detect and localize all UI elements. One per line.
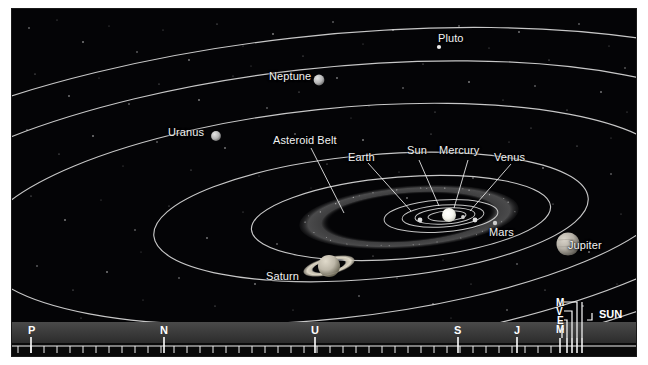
body-mercury bbox=[461, 215, 465, 219]
body-neptune bbox=[314, 75, 325, 86]
solar-system-canvas bbox=[11, 8, 637, 357]
body-uranus bbox=[211, 131, 221, 141]
label-neptune: Neptune bbox=[269, 70, 311, 82]
solar-system-figure: Pluto Neptune Uranus Asteroid Belt Earth… bbox=[0, 0, 648, 365]
label-sun: Sun bbox=[407, 144, 427, 156]
body-mars bbox=[493, 221, 497, 225]
label-mars: Mars bbox=[489, 226, 514, 238]
label-mercury: Mercury bbox=[439, 144, 479, 156]
body-pluto bbox=[437, 45, 441, 49]
body-sun bbox=[442, 208, 456, 222]
label-pluto: Pluto bbox=[438, 32, 464, 44]
label-saturn: Saturn bbox=[266, 270, 299, 282]
label-asteroid-belt: Asteroid Belt bbox=[273, 134, 337, 146]
diagram-frame: Pluto Neptune Uranus Asteroid Belt Earth… bbox=[11, 8, 637, 357]
scale-label-saturn: S bbox=[454, 325, 461, 336]
scale-label-jupiter: J bbox=[514, 325, 520, 336]
bracket-label-mars: M bbox=[556, 325, 564, 335]
label-earth: Earth bbox=[348, 151, 375, 163]
scale-label-uranus: U bbox=[311, 325, 319, 336]
label-venus: Venus bbox=[494, 151, 525, 163]
body-earth bbox=[418, 218, 423, 223]
scale-label-pluto: P bbox=[28, 325, 35, 336]
bracket-label-sun: SUN bbox=[599, 309, 622, 320]
label-jupiter: Jupiter bbox=[568, 239, 602, 251]
space-background bbox=[11, 8, 637, 357]
label-uranus: Uranus bbox=[168, 126, 204, 138]
scale-label-neptune: N bbox=[160, 325, 168, 336]
body-venus bbox=[473, 218, 478, 223]
